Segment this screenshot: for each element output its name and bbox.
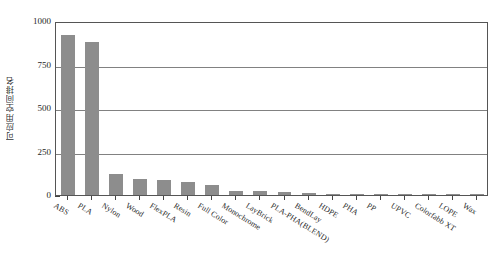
x-tick-label: Wood [124, 201, 145, 219]
x-tick-mark [163, 196, 164, 200]
bar [470, 194, 484, 195]
x-tick-mark [332, 196, 333, 200]
plot-area [55, 22, 488, 196]
x-tick-mark [452, 196, 453, 200]
x-tick-label: PLA [76, 201, 94, 217]
x-tick-label: UPVC [389, 201, 412, 220]
x-tick-label: Wax [461, 201, 478, 216]
bar-series [56, 23, 487, 195]
x-tick-mark [356, 196, 357, 200]
x-tick-mark [139, 196, 140, 200]
y-tick-mark [55, 196, 60, 197]
bar [253, 191, 267, 195]
bar [302, 193, 316, 195]
bar [85, 42, 99, 195]
x-tick-mark [404, 196, 405, 200]
bar-chart-figure: 可应用空间排名 02505007501000 ABSPLANylonWoodFl… [0, 0, 499, 268]
bar [157, 180, 171, 195]
bar [326, 194, 340, 195]
x-tick-mark [115, 196, 116, 200]
bar [181, 182, 195, 195]
x-tick-mark [308, 196, 309, 200]
y-tick-label: 500 [11, 103, 51, 113]
bar [422, 194, 436, 195]
bar [229, 191, 243, 195]
x-tick-mark [259, 196, 260, 200]
x-tick-mark [91, 196, 92, 200]
y-tick-label: 750 [11, 60, 51, 70]
bar [109, 174, 123, 195]
x-tick-mark [235, 196, 236, 200]
y-tick-label: 1000 [11, 16, 51, 26]
bar [398, 194, 412, 195]
y-tick-label: 250 [11, 147, 51, 157]
x-tick-mark [284, 196, 285, 200]
x-tick-label: ABS [52, 201, 70, 217]
bar [278, 192, 292, 195]
bar [350, 194, 364, 195]
x-tick-mark [428, 196, 429, 200]
x-tick-label: PHA [341, 201, 360, 217]
x-tick-mark [211, 196, 212, 200]
y-tick-label: 0 [11, 190, 51, 200]
x-tick-mark [67, 196, 68, 200]
bar [133, 179, 147, 195]
bar [61, 35, 75, 195]
x-tick-mark [187, 196, 188, 200]
x-tick-mark [380, 196, 381, 200]
bar [446, 194, 460, 195]
x-tick-label: PP [365, 201, 377, 213]
x-tick-label: Nylon [100, 201, 122, 219]
x-tick-mark [476, 196, 477, 200]
bar [205, 185, 219, 195]
bar [374, 194, 388, 195]
